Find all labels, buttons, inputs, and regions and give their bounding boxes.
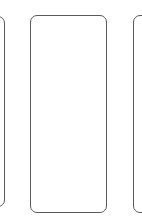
carousel-card-next[interactable]: [133, 15, 142, 213]
carousel-card-current[interactable]: [30, 15, 107, 213]
carousel-card-previous[interactable]: [0, 16, 5, 207]
